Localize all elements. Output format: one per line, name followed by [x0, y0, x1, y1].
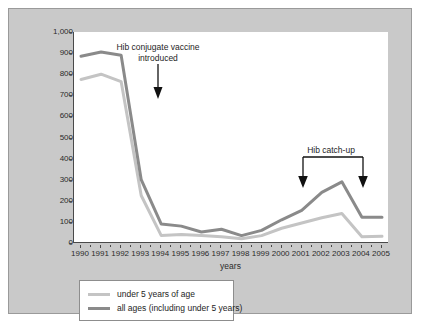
x-axis-tick-label: 2000: [272, 249, 290, 258]
x-axis-tick-label: 2004: [352, 249, 370, 258]
y-axis-tick-label: 0: [39, 239, 73, 247]
x-axis-tick-mark: [180, 245, 181, 248]
x-axis-tick-label: 1991: [91, 249, 109, 258]
screenshot-root: 01002003004005006007008009001,000: [0, 0, 421, 325]
x-axis-tick-label: 1999: [252, 249, 270, 258]
y-axis-tick-mark: [69, 32, 72, 33]
x-axis-title: years: [73, 261, 388, 271]
annotation-vaccine-line1: Hib conjugate vaccine: [105, 42, 211, 53]
y-axis-tick-label: 700: [39, 91, 73, 99]
x-axis-tick-mark: [220, 245, 221, 248]
y-axis-tick-mark: [69, 138, 72, 139]
x-axis-tick-label: 1994: [151, 249, 169, 258]
annotation-vaccine-line2: introduced: [105, 53, 211, 64]
x-axis-tick-label: 2001: [292, 249, 310, 258]
y-axis-tick-mark: [69, 180, 72, 181]
x-axis-tick-label: 2005: [372, 249, 390, 258]
y-axis-tick-mark: [69, 53, 72, 54]
y-axis-tick-mark: [69, 159, 72, 160]
x-axis-minor-tick-mark: [331, 245, 332, 247]
x-axis-tick-label: 2003: [332, 249, 350, 258]
x-axis-tick-mark: [80, 245, 81, 248]
x-axis-tick-mark: [321, 245, 322, 248]
x-axis-tick-mark: [200, 245, 201, 248]
legend-label-all-ages: all ages (including under 5 years): [117, 303, 242, 313]
y-axis: 01002003004005006007008009001,000: [31, 32, 73, 243]
legend-item-all-ages: all ages (including under 5 years): [88, 301, 233, 315]
x-axis-tick-mark: [281, 245, 282, 248]
y-axis-tick-label: 900: [39, 49, 73, 57]
x-axis-minor-tick-mark: [110, 245, 111, 247]
legend-swatch-under-5: [88, 293, 110, 296]
x-axis-tick-mark: [160, 245, 161, 248]
x-axis-minor-tick-mark: [271, 245, 272, 247]
figure-panel: 01002003004005006007008009001,000: [8, 8, 412, 314]
x-axis-tick-mark: [100, 245, 101, 248]
x-axis-minor-tick-mark: [130, 245, 131, 247]
x-axis: 1990199119921993199419951996199719981999…: [73, 245, 388, 261]
x-axis-minor-tick-mark: [351, 245, 352, 247]
y-axis-tick-label: 500: [39, 134, 73, 142]
x-axis-minor-tick-mark: [150, 245, 151, 247]
x-axis-tick-label: 1997: [212, 249, 230, 258]
legend-swatch-all-ages: [88, 307, 110, 310]
x-axis-minor-tick-mark: [190, 245, 191, 247]
x-axis-tick-label: 1990: [71, 249, 89, 258]
x-axis-tick-label: 1996: [191, 249, 209, 258]
y-axis-tick-label: 800: [39, 70, 73, 78]
x-axis-minor-tick-mark: [371, 245, 372, 247]
x-axis-tick-label: 1992: [111, 249, 129, 258]
y-axis-tick-label: 400: [39, 155, 73, 163]
x-axis-minor-tick-mark: [251, 245, 252, 247]
y-axis-tick-mark: [69, 74, 72, 75]
x-axis-tick-mark: [381, 245, 382, 248]
y-axis-tick-label: 100: [39, 218, 73, 226]
x-axis-minor-tick-mark: [311, 245, 312, 247]
x-axis-tick-mark: [241, 245, 242, 248]
y-axis-tick-mark: [69, 201, 72, 202]
x-axis-tick-mark: [301, 245, 302, 248]
y-axis-tick-mark: [69, 116, 72, 117]
x-axis-minor-tick-mark: [170, 245, 171, 247]
x-axis-tick-label: 1998: [232, 249, 250, 258]
y-axis-tick-mark: [69, 243, 72, 244]
legend-item-under-5: under 5 years of age: [88, 287, 233, 301]
y-axis-tick-label: 200: [39, 197, 73, 205]
x-axis-minor-tick-mark: [291, 245, 292, 247]
x-axis-tick-mark: [361, 245, 362, 248]
x-axis-minor-tick-mark: [210, 245, 211, 247]
y-axis-tick-label: 300: [39, 176, 73, 184]
x-axis-tick-mark: [120, 245, 121, 248]
catch-up-bracket-icon: [298, 157, 368, 188]
annotation-vaccine-introduced: Hib conjugate vaccine introduced: [105, 42, 211, 64]
vaccine-arrow-icon: [154, 64, 163, 99]
y-axis-tick-mark: [69, 222, 72, 223]
y-axis-tick-label: 1,000: [39, 28, 73, 36]
x-axis-minor-tick-mark: [90, 245, 91, 247]
x-axis-minor-tick-mark: [231, 245, 232, 247]
x-axis-tick-mark: [140, 245, 141, 248]
x-axis-tick-mark: [341, 245, 342, 248]
x-axis-tick-label: 2002: [312, 249, 330, 258]
x-axis-tick-label: 1993: [131, 249, 149, 258]
y-axis-tick-label: 600: [39, 112, 73, 120]
y-axis-tick-mark: [69, 95, 72, 96]
legend: under 5 years of age all ages (including…: [79, 280, 234, 321]
x-axis-tick-mark: [261, 245, 262, 248]
annotation-hib-catch-up: Hib catch-up: [295, 145, 367, 156]
x-axis-tick-label: 1995: [171, 249, 189, 258]
legend-label-under-5: under 5 years of age: [117, 289, 195, 299]
